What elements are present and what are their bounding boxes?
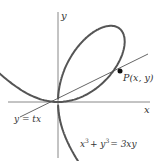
x-axis-label: x: [144, 104, 150, 115]
curve-equation-label: x3+ y3= 3xy: [80, 137, 137, 149]
y-axis-label: y: [60, 10, 67, 21]
point-p-label: P(x, y): [122, 72, 154, 83]
folium-diagram: y x P(x, y) y = tx x3+ y3= 3xy: [0, 0, 158, 161]
point-p: [118, 69, 123, 74]
line-y-equals-tx: [20, 54, 148, 117]
line-label: y = tx: [13, 114, 41, 124]
